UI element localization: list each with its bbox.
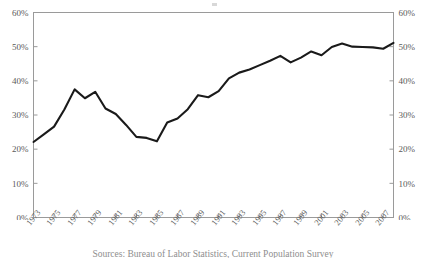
chart-plot-area: 0%10%20%30%40%50%60% 0%10%20%30%40%50%60… <box>0 0 426 220</box>
left-y-tick-label: 30% <box>12 110 29 120</box>
line-chart-svg: 0%10%20%30%40%50%60% 0%10%20%30%40%50%60… <box>0 0 426 220</box>
data-series-line <box>34 43 394 142</box>
plot-frame <box>34 13 394 218</box>
series-line-share <box>34 43 394 142</box>
left-y-tick-label: 10% <box>12 179 29 189</box>
left-y-tick-label: 50% <box>12 42 29 52</box>
right-y-tick-label: 20% <box>399 144 416 154</box>
right-y-tick-label: 40% <box>399 76 416 86</box>
figure-caption: Sources: Bureau of Labor Statistics, Cur… <box>0 249 426 258</box>
left-y-tick-label: 60% <box>12 8 29 18</box>
left-y-tick-label: 40% <box>12 76 29 86</box>
right-y-tick-label: 30% <box>399 110 416 120</box>
right-y-tick-label: 10% <box>399 179 416 189</box>
right-y-tick-label: 60% <box>399 8 416 18</box>
x-axis-ticks <box>34 214 384 218</box>
x-axis-tick-labels: 1973197519771979198119831985198719891991… <box>0 219 426 249</box>
left-y-tick-label: 20% <box>12 144 29 154</box>
right-y-tick-label: 50% <box>399 42 416 52</box>
